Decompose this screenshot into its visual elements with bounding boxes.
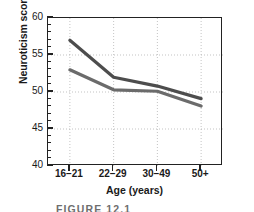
y-tick-minor (47, 24, 51, 25)
y-tick-minor (47, 120, 51, 121)
figure-caption: FIGURE 12.1 (56, 203, 216, 212)
y-tick-minor (47, 150, 51, 151)
y-tick-minor (47, 83, 51, 84)
y-tick-major (47, 164, 53, 165)
x-tick-label: 50+ (170, 168, 230, 179)
y-tick-minor (47, 113, 51, 114)
y-tick-label: 55 (17, 48, 43, 59)
y-tick-label: 45 (17, 122, 43, 133)
figure-container: Neuroticism score 4045505560 16–2122–293… (0, 0, 254, 212)
y-tick-minor (47, 46, 51, 47)
y-tick-minor (47, 39, 51, 40)
y-tick-minor (47, 76, 51, 77)
y-tick-minor (47, 157, 51, 158)
x-axis-title: Age (years) (47, 184, 222, 196)
y-tick-major (47, 16, 53, 17)
y-tick-minor (47, 135, 51, 136)
plot-area (47, 17, 222, 165)
y-tick-minor (47, 61, 51, 62)
y-tick-minor (47, 98, 51, 99)
y-tick-major (47, 90, 53, 91)
y-tick-minor (47, 142, 51, 143)
chart-lines (48, 18, 223, 166)
y-tick-minor (47, 68, 51, 69)
y-tick-major (47, 53, 53, 54)
y-tick-minor (47, 31, 51, 32)
y-tick-major (47, 127, 53, 128)
y-tick-minor (47, 105, 51, 106)
y-tick-label: 60 (17, 11, 43, 22)
y-tick-label: 50 (17, 85, 43, 96)
